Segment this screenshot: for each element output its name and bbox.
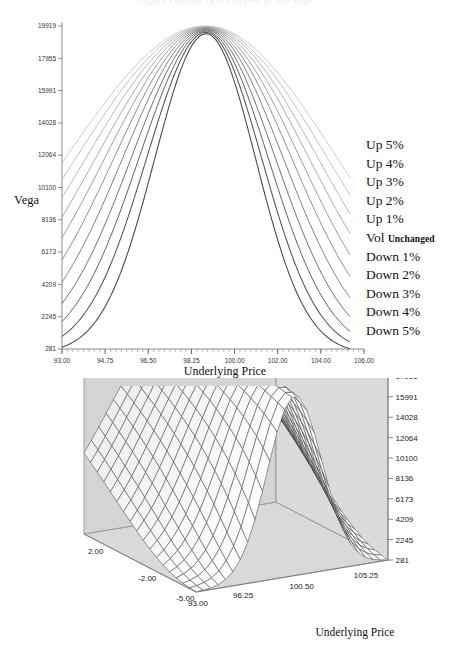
z-tick-label-3d: 10100 [396, 454, 419, 463]
legend-item[interactable]: Down 2% [366, 266, 451, 285]
z-axis-3d: 1991917955159911402812064101008136617342… [388, 378, 418, 565]
x-tick-label-2d: 100.00 [225, 357, 245, 364]
vega-curve [62, 34, 350, 349]
legend-item[interactable]: Down 3% [366, 285, 451, 304]
legend-item-label: Vol [366, 230, 388, 245]
legend-item-label: Up 5% [366, 137, 404, 152]
legend-item-label: Down 5% [366, 323, 420, 338]
x-tick-label-3d: 105.25 [354, 571, 379, 580]
z-tick-label-3d: 17955 [396, 378, 419, 381]
y-tick-label-2d: 4209 [42, 281, 57, 288]
x-axis-2d: 93.0094.7596.5098.25100.00102.00104.0010… [54, 349, 374, 364]
vega-curves-group [62, 26, 350, 349]
x-tick-label-2d: 104.00 [311, 357, 331, 364]
vega-curve [62, 31, 350, 331]
z-tick-label-3d: 8136 [396, 474, 414, 483]
x-tick-label-2d: 102.00 [268, 357, 288, 364]
y-axis-2d: 1991917955159911402812064101008136617342… [38, 22, 62, 352]
y-tick-label-2d: 6173 [42, 248, 57, 255]
vega-curve [62, 26, 350, 178]
y-tick-label-2d: 17955 [38, 55, 56, 62]
z-tick-label-3d: 12064 [396, 434, 419, 443]
z-tick-label-3d: 6173 [396, 495, 414, 504]
series-legend: Up 5%Up 4%Up 3%Up 2%Up 1%Vol UnchangedDo… [366, 136, 451, 341]
y-tick-label-2d: 12064 [38, 151, 56, 158]
legend-item-label: Down 4% [366, 304, 420, 319]
legend-item-label: Down 3% [366, 286, 420, 301]
z-tick-label-3d: 2245 [396, 536, 414, 545]
legend-item[interactable]: Up 4% [366, 155, 451, 174]
legend-item-label: Up 2% [366, 193, 404, 208]
depth-tick-label-3d: 2.00 [88, 547, 104, 556]
y-tick-label-2d: 10100 [38, 184, 56, 191]
legend-item[interactable]: Up 1% [366, 210, 451, 229]
legend-item-label: Up 1% [366, 211, 404, 226]
y-tick-label-2d: 15991 [38, 87, 56, 94]
vega-curve [62, 30, 350, 317]
y-tick-label-2d: 2245 [42, 313, 57, 320]
y-tick-label-2d: 14028 [38, 119, 56, 126]
x-tick-label-2d: 94.75 [97, 357, 114, 364]
vega-curve [62, 32, 350, 342]
legend-item[interactable]: Vol Unchanged [366, 229, 451, 248]
x-tick-label-2d: 98.25 [183, 357, 200, 364]
depth-tick-label-3d: -5.00 [176, 594, 195, 603]
legend-item-label: Up 4% [366, 156, 404, 171]
legend-item[interactable]: Up 5% [366, 136, 451, 155]
z-tick-label-3d: 15991 [396, 393, 419, 402]
y-tick-label-2d: 8136 [42, 216, 57, 223]
legend-item-label: Down 2% [366, 267, 420, 282]
legend-item[interactable]: Down 1% [366, 248, 451, 267]
vega-curve [62, 29, 350, 297]
y-axis-title-2d: Vega [14, 193, 39, 207]
legend-item-label: Down 1% [366, 249, 420, 264]
legend-item[interactable]: Down 5% [366, 322, 451, 341]
y-tick-label-2d: 281 [45, 345, 56, 352]
z-tick-label-3d: 14028 [396, 413, 419, 422]
z-tick-label-3d: 4209 [396, 515, 414, 524]
vega-curve [62, 27, 350, 214]
vega-surface-3d-chart: 1991917955159911402812064101008136617342… [0, 378, 451, 653]
legend-item[interactable]: Up 2% [366, 192, 451, 211]
vega-curve [62, 26, 350, 194]
vega-curve [62, 27, 350, 233]
x-tick-label-3d: 100.50 [289, 582, 314, 591]
depth-tick-label-3d: -2.00 [138, 574, 157, 583]
legend-item-label: Up 3% [366, 174, 404, 189]
legend-item-sublabel: Unchanged [388, 234, 435, 244]
x-axis-title-2d: Underlying Price [184, 364, 266, 378]
x-tick-label-2d: 93.00 [54, 357, 71, 364]
x-tick-label-2d: 106.00 [354, 357, 374, 364]
vega-curve [62, 29, 350, 277]
x-axis-title-3d: Underlying Price [316, 626, 395, 639]
legend-item[interactable]: Up 3% [366, 173, 451, 192]
z-tick-label-3d: 281 [396, 556, 410, 565]
x-tick-label-2d: 96.50 [140, 357, 157, 364]
legend-item[interactable]: Down 4% [366, 303, 451, 322]
x-tick-label-3d: 96.25 [233, 591, 254, 600]
y-tick-label-2d: 19919 [38, 22, 56, 29]
